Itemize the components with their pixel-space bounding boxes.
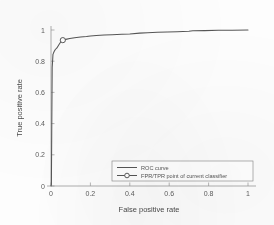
- y-tick-labels: 0 0.2 0.4 0.6 0.8 1: [35, 27, 45, 190]
- legend-label-roc-curve: ROC curve: [141, 165, 169, 171]
- x-tick-labels: 0 0.2 0.4 0.6 0.8 1: [49, 190, 250, 197]
- y-tick-label: 0.8: [35, 58, 45, 65]
- x-tick-label: 0.8: [204, 190, 214, 197]
- y-axis-title: True positive rate: [15, 79, 24, 137]
- x-axis-ticks: [51, 183, 248, 187]
- y-tick-label: 1: [41, 27, 45, 34]
- y-tick-label: 0.6: [35, 89, 45, 96]
- x-tick-label: 0: [49, 190, 53, 197]
- y-tick-label: 0.2: [35, 151, 45, 158]
- chart-legend: ROC curve FPR/TPR point of current class…: [112, 161, 253, 181]
- fpr-tpr-point-marker: [60, 38, 65, 43]
- legend-marker-fpr-tpr-point: [125, 173, 130, 178]
- roc-plot-canvas: 0 0.2 0.4 0.6 0.8 1 0 0.2 0.4 0.6 0.8 1 …: [0, 0, 274, 225]
- roc-curve-figure: 0 0.2 0.4 0.6 0.8 1 0 0.2 0.4 0.6 0.8 1 …: [0, 0, 274, 225]
- y-tick-label: 0: [41, 183, 45, 190]
- x-axis-title: False positive rate: [119, 205, 180, 214]
- legend-label-fpr-tpr-point: FPR/TPR point of current classifier: [141, 173, 227, 179]
- x-tick-label: 0.2: [86, 190, 96, 197]
- y-tick-label: 0.4: [35, 120, 45, 127]
- x-tick-label: 0.6: [164, 190, 174, 197]
- x-tick-label: 1: [246, 190, 250, 197]
- x-tick-label: 0.4: [125, 190, 135, 197]
